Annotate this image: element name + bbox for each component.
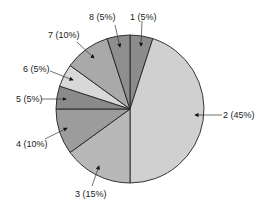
slice-label-2: 2 (45%) (223, 110, 255, 120)
slice-label-5: 5 (5%) (16, 94, 43, 104)
slice-label-6: 6 (5%) (23, 64, 50, 74)
pie-chart-svg: 1 (5%) 8 (5%) 7 (10%) 6 (5%) 5 (5%) 4 (1… (0, 0, 263, 209)
pie-chart: 1 (5%) 8 (5%) 7 (10%) 6 (5%) 5 (5%) 4 (1… (0, 0, 263, 209)
slice-label-1: 1 (5%) (130, 12, 157, 22)
slice-label-7: 7 (10%) (48, 30, 80, 40)
slice-label-8: 8 (5%) (89, 12, 116, 22)
pie-slices (56, 35, 204, 183)
slice-label-3: 3 (15%) (75, 189, 107, 199)
slice-label-4: 4 (10%) (16, 139, 48, 149)
